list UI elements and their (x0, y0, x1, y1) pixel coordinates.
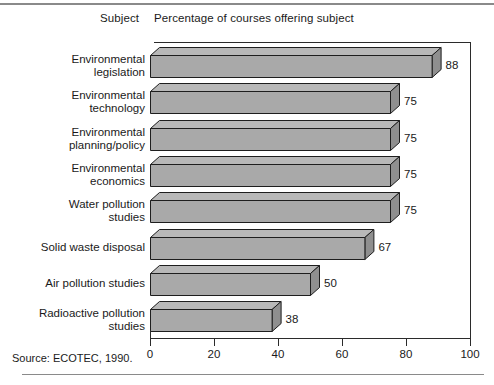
bar-value-label: 75 (404, 95, 417, 107)
x-tick (470, 339, 471, 346)
bar-value-label: 88 (446, 59, 459, 71)
bar-value-label: 75 (404, 204, 417, 216)
category-label: Environmental planning/policy (69, 126, 145, 152)
category-label: Air pollution studies (45, 277, 145, 290)
category-label: Environmental economics (71, 162, 145, 188)
x-tick-label: 60 (336, 348, 349, 360)
bar-3d (150, 229, 375, 261)
x-tick (278, 339, 279, 346)
bar-value-label: 50 (324, 277, 337, 289)
x-axis-line (150, 338, 471, 339)
x-tick (214, 339, 215, 346)
bar-3d (150, 120, 401, 152)
top-rule (0, 3, 494, 5)
category-label: Radioactive pollution studies (39, 307, 145, 333)
bar-3d (150, 156, 401, 188)
bar-3d (150, 83, 401, 115)
bar-value-label: 75 (404, 168, 417, 180)
bar-3d (150, 192, 401, 224)
subject-column-heading: Subject (100, 12, 139, 24)
bar-value-label: 38 (286, 313, 299, 325)
x-tick (406, 339, 407, 346)
category-label: Environmental legislation (71, 53, 145, 79)
x-tick-label: 20 (208, 348, 221, 360)
bar-value-label: 67 (378, 241, 391, 253)
x-tick-label: 0 (147, 348, 153, 360)
percentage-column-heading: Percentage of courses offering subject (154, 12, 354, 24)
source-note: Source: ECOTEC, 1990. (12, 352, 132, 364)
bar-3d (150, 265, 321, 297)
bar-value-label: 75 (404, 132, 417, 144)
x-tick (342, 339, 343, 346)
x-tick (150, 339, 151, 346)
category-label: Solid waste disposal (41, 241, 145, 254)
plot-frame-top (154, 42, 471, 43)
bar-3d (150, 47, 443, 79)
x-tick-label: 100 (460, 348, 479, 360)
plot-frame-right (470, 42, 471, 338)
bar-3d (150, 301, 283, 333)
category-label: Environmental technology (71, 89, 145, 115)
bottom-rule (22, 374, 484, 375)
category-label: Water pollution studies (69, 198, 145, 224)
x-tick-label: 40 (272, 348, 285, 360)
x-tick-label: 80 (400, 348, 413, 360)
